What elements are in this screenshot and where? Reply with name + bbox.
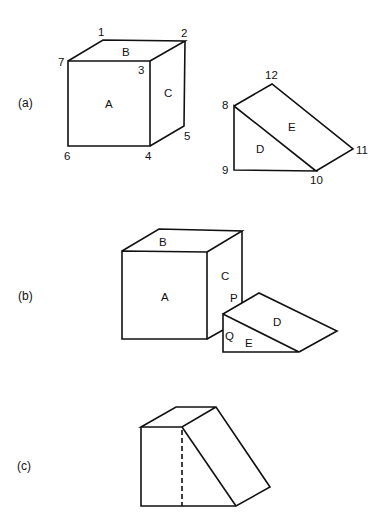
slope-front-edge <box>182 427 236 506</box>
panel-c-combined-solid <box>141 407 270 506</box>
panel-label-a: (a) <box>18 96 33 110</box>
face-label-e: E <box>288 121 296 133</box>
cube-top-face <box>122 229 242 252</box>
face-label-e: E <box>245 337 253 349</box>
contact-label-q: Q <box>225 330 234 342</box>
vertex-label-6: 6 <box>64 150 70 162</box>
vertex-label-4: 4 <box>145 150 152 162</box>
vertex-label-10: 10 <box>310 174 323 186</box>
vertex-label-12: 12 <box>265 69 278 81</box>
wedge-side-face <box>223 314 299 352</box>
panel-label-c: (c) <box>17 459 31 473</box>
panel-b-wedge: D E Q <box>223 293 337 352</box>
face-label-b: B <box>159 236 167 248</box>
vertex-label-1: 1 <box>98 26 104 38</box>
cube-bottom-edge <box>207 330 223 339</box>
face-label-d: D <box>256 143 264 155</box>
contact-label-p: P <box>230 292 238 304</box>
assembly-diagram: (a) (b) (c) B A C 1 2 3 4 5 6 7 D E 8 9 … <box>0 0 380 532</box>
vertex-label-11: 11 <box>356 144 368 156</box>
vertex-label-5: 5 <box>184 130 190 142</box>
vertex-label-7: 7 <box>58 56 64 68</box>
panel-label-b: (b) <box>18 289 33 303</box>
panel-a-cube: B A C 1 2 3 4 5 6 7 <box>58 26 190 162</box>
vertex-label-2: 2 <box>181 27 187 39</box>
vertex-label-9: 9 <box>222 164 228 176</box>
combined-outline <box>141 407 270 506</box>
face-label-c: C <box>164 87 172 99</box>
face-label-d: D <box>273 316 281 328</box>
wedge-side-face <box>234 106 316 171</box>
vertex-label-3: 3 <box>138 64 144 76</box>
face-label-a: A <box>161 291 169 303</box>
vertex-label-8: 8 <box>222 99 228 111</box>
face-label-c: C <box>221 270 229 282</box>
face-label-b: B <box>122 46 130 58</box>
panel-a-wedge: D E 8 9 10 11 12 <box>222 69 368 186</box>
face-label-a: A <box>105 98 113 110</box>
panel-b-cube: B A C P <box>122 229 242 339</box>
